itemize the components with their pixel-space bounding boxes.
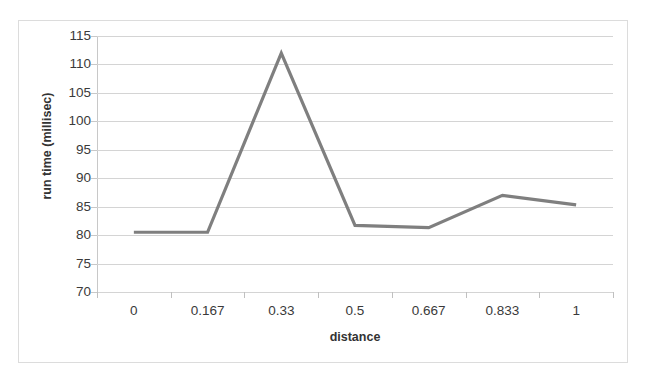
- y-axis-tick-label: 105: [45, 86, 91, 100]
- x-axis-tick-label-group: 00.1670.330.50.6670.8331: [97, 304, 613, 326]
- plot-area: [97, 36, 613, 292]
- y-axis-tick-mark: [91, 264, 97, 265]
- x-axis-tick-label: 0.833: [462, 304, 542, 318]
- data-series-line: [97, 36, 613, 292]
- y-axis-tick-label: 100: [45, 115, 91, 129]
- y-axis-tick-label: 110: [45, 58, 91, 72]
- y-axis-tick-mark: [91, 207, 97, 208]
- x-axis-tick-label: 0.667: [389, 304, 469, 318]
- y-axis-tick-label: 115: [45, 29, 91, 43]
- y-axis-tick-mark: [91, 235, 97, 236]
- y-axis-tick-label: 90: [45, 171, 91, 185]
- x-axis-tick-label: 0.167: [168, 304, 248, 318]
- x-axis-tick-mark: [97, 292, 98, 298]
- y-axis-tick-label: 80: [45, 228, 91, 242]
- y-axis-tick-mark: [91, 64, 97, 65]
- x-axis-tick-mark: [613, 292, 614, 298]
- y-axis-tick-mark: [91, 150, 97, 151]
- y-axis-tick-mark: [91, 36, 97, 37]
- x-axis-tick-label: 0: [94, 304, 174, 318]
- y-axis-tick-label: 85: [45, 200, 91, 214]
- x-axis-tick-mark: [392, 292, 393, 298]
- x-axis-tick-mark: [466, 292, 467, 298]
- y-axis-tick-label: 70: [45, 285, 91, 299]
- chart-container: run time (millisec) 70758085909510010511…: [18, 20, 628, 363]
- x-axis-tick-mark: [318, 292, 319, 298]
- y-axis-tick-mark: [91, 93, 97, 94]
- x-axis-tick-mark: [244, 292, 245, 298]
- x-axis-tick-label: 1: [536, 304, 616, 318]
- y-axis-tick-label-group: 707580859095100105110115: [45, 36, 91, 292]
- y-axis-tick-label: 95: [45, 143, 91, 157]
- x-axis-tick-mark: [171, 292, 172, 298]
- x-axis-tick-label: 0.5: [315, 304, 395, 318]
- x-axis-tick-mark: [539, 292, 540, 298]
- y-axis-tick-mark: [91, 121, 97, 122]
- y-axis-tick-label: 75: [45, 257, 91, 271]
- x-axis-tick-label: 0.33: [241, 304, 321, 318]
- x-axis-title: distance: [97, 330, 613, 344]
- y-axis-tick-mark: [91, 178, 97, 179]
- gridline: [97, 292, 613, 293]
